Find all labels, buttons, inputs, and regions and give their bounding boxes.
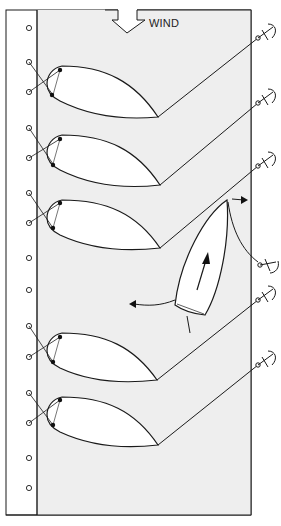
tack-dot	[51, 423, 55, 427]
sail-trim-diagram: WIND	[0, 0, 281, 526]
tack-dot	[58, 335, 62, 339]
track-hole	[26, 485, 31, 490]
anchor-icon	[256, 24, 276, 40]
anchor-icon	[258, 259, 279, 273]
tack-dot	[50, 93, 54, 97]
track-hole	[26, 25, 31, 30]
track-hole	[26, 287, 31, 292]
anchor-icon	[256, 286, 276, 302]
tack-dot	[51, 360, 55, 364]
tack-dot	[51, 163, 55, 167]
tack-dot	[51, 226, 55, 230]
anchor-icon	[256, 89, 276, 105]
tack-dot	[58, 201, 62, 205]
track-hole	[26, 255, 31, 260]
tack-dot	[58, 398, 62, 402]
track-hole	[26, 455, 31, 460]
anchor-icon	[256, 152, 276, 168]
anchor-icon	[256, 351, 276, 367]
tack-dot	[58, 137, 62, 141]
tack-dot	[58, 68, 62, 72]
wind-label: WIND	[149, 17, 179, 29]
